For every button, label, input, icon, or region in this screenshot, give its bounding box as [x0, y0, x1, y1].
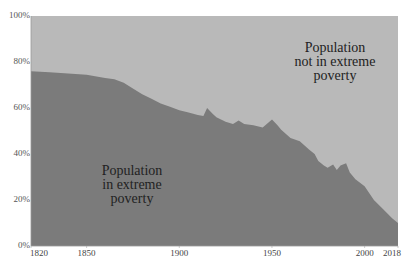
- y-tick-label: 100%: [0, 10, 30, 20]
- y-tick-label: 80%: [0, 56, 30, 66]
- annotation-line: Population: [280, 41, 390, 55]
- y-tick-label: 20%: [0, 194, 30, 204]
- annotation-not-in-extreme-poverty: Population not in extreme poverty: [280, 41, 390, 83]
- annotation-in-extreme-poverty: Population in extreme poverty: [82, 164, 182, 206]
- annotation-line: not in extreme: [280, 55, 390, 69]
- y-tick-label: 60%: [0, 102, 30, 112]
- annotation-line: poverty: [280, 69, 390, 83]
- x-tick-label: 2018: [383, 248, 401, 258]
- annotation-line: in extreme: [82, 178, 182, 192]
- x-tick-label: 1850: [78, 248, 96, 258]
- annotation-line: Population: [82, 164, 182, 178]
- y-tick-label: 40%: [0, 148, 30, 158]
- x-tick-label: 1820: [30, 248, 48, 258]
- annotation-line: poverty: [82, 192, 182, 206]
- y-tick-label: 0%: [0, 240, 30, 250]
- x-tick-label: 1900: [170, 248, 188, 258]
- x-tick-label: 2000: [356, 248, 374, 258]
- x-tick-label: 1950: [263, 248, 281, 258]
